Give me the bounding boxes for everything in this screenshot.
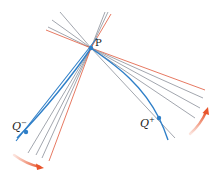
label-q-minus-text: Q [12, 120, 21, 133]
left-limit-line [49, 48, 91, 161]
label-q-minus-sup: − [21, 119, 27, 127]
label-q-plus-text: Q [140, 117, 149, 130]
label-p: P [95, 38, 102, 48]
left-secant-lines [28, 48, 91, 161]
point-p [89, 46, 93, 50]
label-q-minus: Q− [12, 120, 27, 132]
right-limit-line [91, 48, 205, 90]
point-q-plus [157, 116, 161, 120]
label-q-plus-sup: + [149, 116, 155, 124]
arrow-right-motion [190, 107, 209, 134]
secant-tangent-diagram [0, 0, 219, 181]
label-q-plus: Q+ [140, 117, 155, 129]
arrow-left-motion [14, 155, 44, 170]
